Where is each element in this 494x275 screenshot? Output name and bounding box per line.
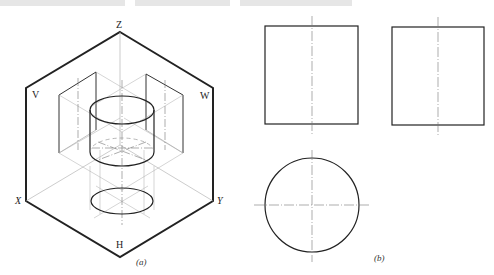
plane-label-v: V xyxy=(32,90,39,100)
projection-lines xyxy=(59,72,183,218)
axis-label-y: Y xyxy=(217,196,223,206)
axis-label-z: Z xyxy=(116,20,122,30)
plane-label-w: W xyxy=(200,91,209,101)
axis-label-x: X xyxy=(15,196,21,206)
axis-lines xyxy=(26,32,213,201)
panel-b-orthographic xyxy=(254,16,484,262)
caption-b: (b) xyxy=(374,253,385,263)
front-view-rectangle xyxy=(265,26,358,124)
projection-diagram xyxy=(0,0,494,275)
panel-a-isometric xyxy=(26,32,213,257)
plane-label-h: H xyxy=(116,240,123,250)
w-wall-projection xyxy=(146,74,183,153)
projection-planes-hexagon xyxy=(26,32,213,257)
caption-a: (a) xyxy=(136,257,147,267)
